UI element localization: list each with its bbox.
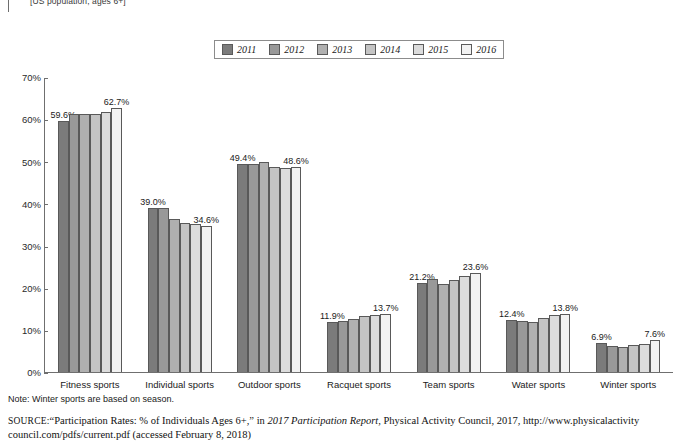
bar-group-bars: 6.9%7.6%	[596, 78, 660, 372]
bar: 48.6%	[291, 167, 302, 372]
bar-value-label: 11.9%	[320, 311, 345, 321]
plot-area: 0%10%20%30%40%50%60%70% 59.6%62.7%Fitnes…	[44, 78, 673, 373]
y-axis-tick-label: 30%	[22, 241, 44, 251]
bar	[280, 168, 291, 372]
bar-value-label: 49.4%	[230, 153, 256, 163]
bar-group: 21.2%23.6%Team sports	[404, 78, 494, 372]
bar: 39.0%	[148, 208, 159, 372]
y-axis-tick-label: 60%	[22, 115, 44, 125]
bar-value-label: 23.6%	[463, 262, 489, 272]
bar-value-label: 34.6%	[194, 215, 220, 225]
chart-source: SOURCE:“Participation Rates: % of Indivi…	[8, 414, 668, 442]
x-axis-category-label: Individual sports	[135, 379, 225, 390]
bar	[517, 321, 528, 372]
bar	[169, 219, 180, 372]
bar	[438, 284, 449, 373]
y-axis-tick-label: 0%	[27, 368, 44, 378]
legend-swatch-icon	[365, 44, 376, 55]
x-axis-line	[44, 372, 673, 373]
bar: 21.2%	[417, 283, 428, 372]
y-axis-tick-label: 40%	[22, 199, 44, 209]
bar	[180, 223, 191, 372]
bar: 6.9%	[596, 343, 607, 372]
x-axis-category-label: Winter sports	[583, 379, 673, 390]
bar-value-label: 7.6%	[645, 329, 666, 339]
legend-label: 2016	[476, 44, 496, 55]
bar	[459, 276, 470, 372]
y-axis-tick-label: 50%	[22, 157, 44, 167]
source-text-part1: “Participation Rates: % of Individuals A…	[50, 415, 268, 426]
x-axis-category-label: Fitness sports	[45, 379, 135, 390]
bar: 12.4%	[506, 320, 517, 372]
bar: 13.7%	[380, 314, 391, 372]
legend-label: 2012	[284, 44, 304, 55]
legend-item: 2011	[222, 44, 256, 55]
bar: 59.6%	[58, 121, 69, 372]
legend-swatch-icon	[222, 44, 233, 55]
chart-note: Note: Winter sports are based on season.	[8, 394, 174, 404]
bar-group: 39.0%34.6%Individual sports	[135, 78, 225, 372]
bar	[549, 315, 560, 372]
bar	[348, 319, 359, 372]
bar: 34.6%	[201, 226, 212, 372]
bar-value-label: 6.9%	[591, 332, 612, 342]
x-axis-category-label: Outdoor sports	[224, 379, 314, 390]
bar	[190, 224, 201, 372]
bar-group-bars: 49.4%48.6%	[237, 78, 301, 372]
bar-group-bars: 59.6%62.7%	[58, 78, 122, 372]
y-axis-tick-label: 20%	[22, 283, 44, 293]
chart-subtitle: [US population, ages 6+]	[30, 0, 126, 6]
legend-swatch-icon	[317, 44, 328, 55]
legend-label: 2011	[237, 44, 256, 55]
bar-value-label: 13.7%	[373, 303, 399, 313]
legend-swatch-icon	[461, 44, 472, 55]
chart-legend: 201120122013201420152016	[214, 40, 504, 59]
bar: 49.4%	[237, 164, 248, 372]
legend-item: 2015	[413, 44, 448, 55]
bar	[101, 112, 112, 372]
bar-group: 6.9%7.6%Winter sports	[583, 78, 673, 372]
bar: 62.7%	[111, 108, 122, 372]
bar-value-label: 39.0%	[140, 197, 166, 207]
source-label: SOURCE:	[8, 416, 50, 426]
bar	[158, 208, 169, 372]
x-axis-category-label: Racquet sports	[314, 379, 404, 390]
bar: 7.6%	[650, 340, 661, 372]
bar	[538, 318, 549, 372]
bar	[618, 347, 629, 372]
x-axis-category-label: Water sports	[494, 379, 584, 390]
y-axis-tick-label: 70%	[22, 73, 44, 83]
legend-label: 2013	[332, 44, 352, 55]
bar-group: 11.9%13.7%Racquet sports	[314, 78, 404, 372]
bar	[449, 280, 460, 372]
bar	[628, 345, 639, 372]
bar	[269, 167, 280, 372]
legend-item: 2016	[461, 44, 496, 55]
legend-swatch-icon	[269, 44, 280, 55]
bar-value-label: 62.7%	[104, 97, 130, 107]
bar	[528, 322, 539, 372]
legend-item: 2013	[317, 44, 352, 55]
bar	[639, 344, 650, 372]
legend-item: 2012	[269, 44, 304, 55]
bar	[69, 114, 80, 372]
legend-label: 2014	[380, 44, 400, 55]
bar	[370, 315, 381, 372]
bar	[607, 346, 618, 372]
top-border-rule	[8, 0, 9, 12]
bar-group-bars: 12.4%13.8%	[506, 78, 570, 372]
y-axis-tick-mark	[44, 373, 48, 374]
bar	[427, 279, 438, 372]
bar-group: 12.4%13.8%Water sports	[494, 78, 584, 372]
bar: 11.9%	[327, 322, 338, 372]
source-report-title: 2017 Participation Report	[267, 415, 378, 426]
bar	[248, 164, 259, 372]
bar: 23.6%	[470, 273, 481, 372]
bar	[90, 114, 101, 372]
bar	[359, 316, 370, 372]
bar-group-bars: 21.2%23.6%	[417, 78, 481, 372]
bar-group: 59.6%62.7%Fitness sports	[45, 78, 135, 372]
legend-label: 2015	[428, 44, 448, 55]
bar-group: 49.4%48.6%Outdoor sports	[224, 78, 314, 372]
bar: 13.8%	[560, 314, 571, 372]
